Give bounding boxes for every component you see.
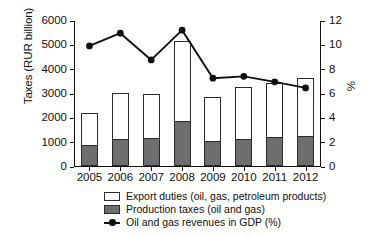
y-ticklabel-left-4000: 4000	[41, 64, 67, 76]
legend-label-export-duties: Export duties (oil, gas, petroleum produ…	[126, 191, 326, 202]
y-tick-right-2	[321, 142, 325, 143]
y-ticklabel-right-10: 10	[329, 39, 342, 51]
y-tick-right-8	[321, 69, 325, 70]
gdp-marker-2005[interactable]	[86, 43, 93, 50]
y-tick-right-0	[321, 167, 325, 168]
y-ticklabel-right-4: 4	[329, 112, 335, 124]
y-axis-left-title: Taxes (RUR billion)	[22, 0, 34, 131]
legend-item-export-duties: Export duties (oil, gas, petroleum produ…	[104, 190, 334, 203]
y-ticklabel-right-2: 2	[329, 137, 335, 149]
legend-item-gdp-line: Oil and gas revenues in GDP (%)	[104, 216, 334, 229]
y-ticklabel-right-8: 8	[329, 64, 335, 76]
y-ticklabel-left-1000: 1000	[41, 137, 67, 149]
y-ticklabel-right-0: 0	[329, 161, 335, 173]
y-tick-right-4	[321, 118, 325, 119]
plot-area: 0100020003000400050006000 024681012 2005…	[74, 21, 321, 166]
y-ticklabel-left-5000: 5000	[41, 39, 67, 51]
gdp-line-swatch	[104, 218, 120, 227]
gdp-marker-2010[interactable]	[240, 73, 247, 80]
gdp-marker-2009[interactable]	[210, 75, 217, 82]
gdp-marker-2012[interactable]	[302, 85, 309, 92]
y-ticklabel-right-6: 6	[329, 88, 335, 100]
y-ticklabel-left-2000: 2000	[41, 112, 67, 124]
production-taxes-swatch	[104, 205, 120, 214]
chart-legend: Export duties (oil, gas, petroleum produ…	[104, 190, 334, 229]
legend-label-gdp-line: Oil and gas revenues in GDP (%)	[126, 217, 281, 228]
y-tick-right-10	[321, 45, 325, 46]
y-ticklabel-left-3000: 3000	[41, 88, 67, 100]
y-ticklabel-left-6000: 6000	[41, 15, 67, 27]
gdp-line-series	[74, 21, 321, 167]
gdp-line-markers	[86, 27, 309, 92]
export-duties-swatch	[104, 192, 120, 201]
chart-figure: Taxes (RUR billion) % 010002000300040005…	[0, 0, 386, 236]
gdp-marker-2008[interactable]	[179, 27, 186, 34]
gdp-marker-2007[interactable]	[148, 57, 155, 64]
x-ticklabel-2012: 2012	[286, 171, 326, 183]
y-axis-right-title: %	[345, 66, 357, 106]
gdp-marker-2011[interactable]	[271, 78, 278, 85]
y-tick-right-6	[321, 94, 325, 95]
gdp-marker-2006[interactable]	[117, 30, 124, 37]
legend-label-production-taxes: Production taxes (oil and gas)	[126, 204, 265, 215]
legend-item-production-taxes: Production taxes (oil and gas)	[104, 203, 334, 216]
y-ticklabel-right-12: 12	[329, 15, 342, 27]
y-ticklabel-left-0: 0	[61, 161, 67, 173]
y-tick-right-12	[321, 21, 325, 22]
